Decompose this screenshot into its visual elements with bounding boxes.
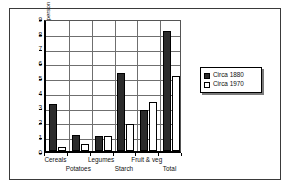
x-axis-tick-labels: CerealsPotatoesLegumesStarchFruit & vegT… bbox=[44, 155, 181, 179]
gridline-vertical bbox=[69, 21, 70, 151]
bar bbox=[95, 136, 103, 151]
chart-frame: Grams of fibre per person a day 01234567… bbox=[9, 8, 281, 180]
chart-legend: Circa 1880 Circa 1970 bbox=[200, 67, 262, 93]
y-tick-mark bbox=[39, 94, 42, 95]
legend-item: Circa 1880 bbox=[204, 71, 257, 80]
legend-label-circa-1880: Circa 1880 bbox=[213, 72, 244, 78]
legend-swatch-circa-1970 bbox=[204, 82, 210, 88]
x-tick-label: Cereals bbox=[44, 156, 66, 163]
x-tick-label: Starch bbox=[115, 165, 133, 172]
gridline-vertical bbox=[137, 21, 138, 151]
gridline-vertical bbox=[160, 21, 161, 151]
bar bbox=[163, 31, 171, 151]
y-tick-mark bbox=[39, 153, 42, 154]
bar bbox=[172, 76, 180, 151]
x-tick-label: Legumes bbox=[88, 156, 114, 163]
gridline-vertical bbox=[92, 21, 93, 151]
bar bbox=[58, 147, 66, 151]
y-tick-mark bbox=[39, 20, 42, 21]
bar bbox=[104, 136, 112, 151]
bar bbox=[140, 110, 148, 151]
y-axis-tick-labels: 0123456789 bbox=[26, 20, 42, 153]
y-tick-mark bbox=[39, 50, 42, 51]
legend-item: Circa 1970 bbox=[204, 80, 257, 89]
y-tick-mark bbox=[39, 109, 42, 110]
y-tick-mark bbox=[39, 123, 42, 124]
gridline-vertical bbox=[115, 21, 116, 151]
y-tick-mark bbox=[39, 64, 42, 65]
bar bbox=[117, 73, 125, 151]
x-tick-label: Potatoes bbox=[66, 165, 91, 172]
y-tick-mark bbox=[39, 79, 42, 80]
x-tick-mark bbox=[181, 153, 182, 156]
bar bbox=[81, 144, 89, 151]
bar bbox=[126, 124, 134, 151]
x-tick-label: Fruit & veg bbox=[131, 156, 162, 163]
bar bbox=[149, 102, 157, 151]
y-tick-mark bbox=[39, 138, 42, 139]
legend-label-circa-1970: Circa 1970 bbox=[213, 81, 244, 87]
bar bbox=[49, 104, 57, 151]
legend-swatch-circa-1880 bbox=[204, 73, 210, 79]
x-tick-label: Total bbox=[163, 165, 177, 172]
y-tick-mark bbox=[39, 35, 42, 36]
plot-area bbox=[44, 20, 181, 153]
bar bbox=[72, 135, 80, 151]
